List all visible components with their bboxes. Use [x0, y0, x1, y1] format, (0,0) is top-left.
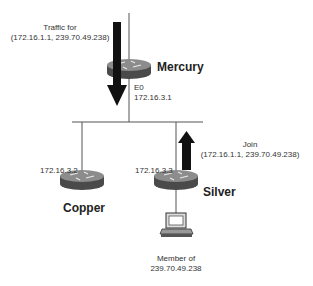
host-label: Member of 239.70.49.238: [130, 254, 222, 274]
mercury-ip: 172.16.3.1: [134, 93, 172, 103]
mercury-label: Mercury: [157, 60, 204, 74]
join-annotation-line1: Join: [200, 140, 300, 150]
host-computer-icon: [160, 213, 193, 237]
copper-ip: 172.16.3.2: [40, 166, 78, 176]
traffic-annotation-line1: Traffic for: [8, 23, 112, 33]
mercury-interface-label: E0 172.16.3.1: [134, 83, 172, 103]
silver-ip: 172.16.3.3: [135, 166, 173, 176]
traffic-annotation: Traffic for (172.16.1.1, 239.70.49.238): [8, 23, 112, 43]
mercury-interface-name: E0: [134, 83, 172, 93]
silver-label: Silver: [203, 185, 236, 199]
join-up-arrow-icon: [178, 131, 195, 170]
host-label-line1: Member of: [130, 254, 222, 264]
copper-label: Copper: [63, 201, 105, 215]
join-annotation: Join (172.16.1.1, 239.70.49.238): [200, 140, 300, 160]
traffic-annotation-line2: (172.16.1.1, 239.70.49.238): [8, 33, 112, 43]
join-annotation-line2: (172.16.1.1, 239.70.49.238): [200, 150, 300, 160]
host-label-line2: 239.70.49.238: [130, 264, 222, 274]
